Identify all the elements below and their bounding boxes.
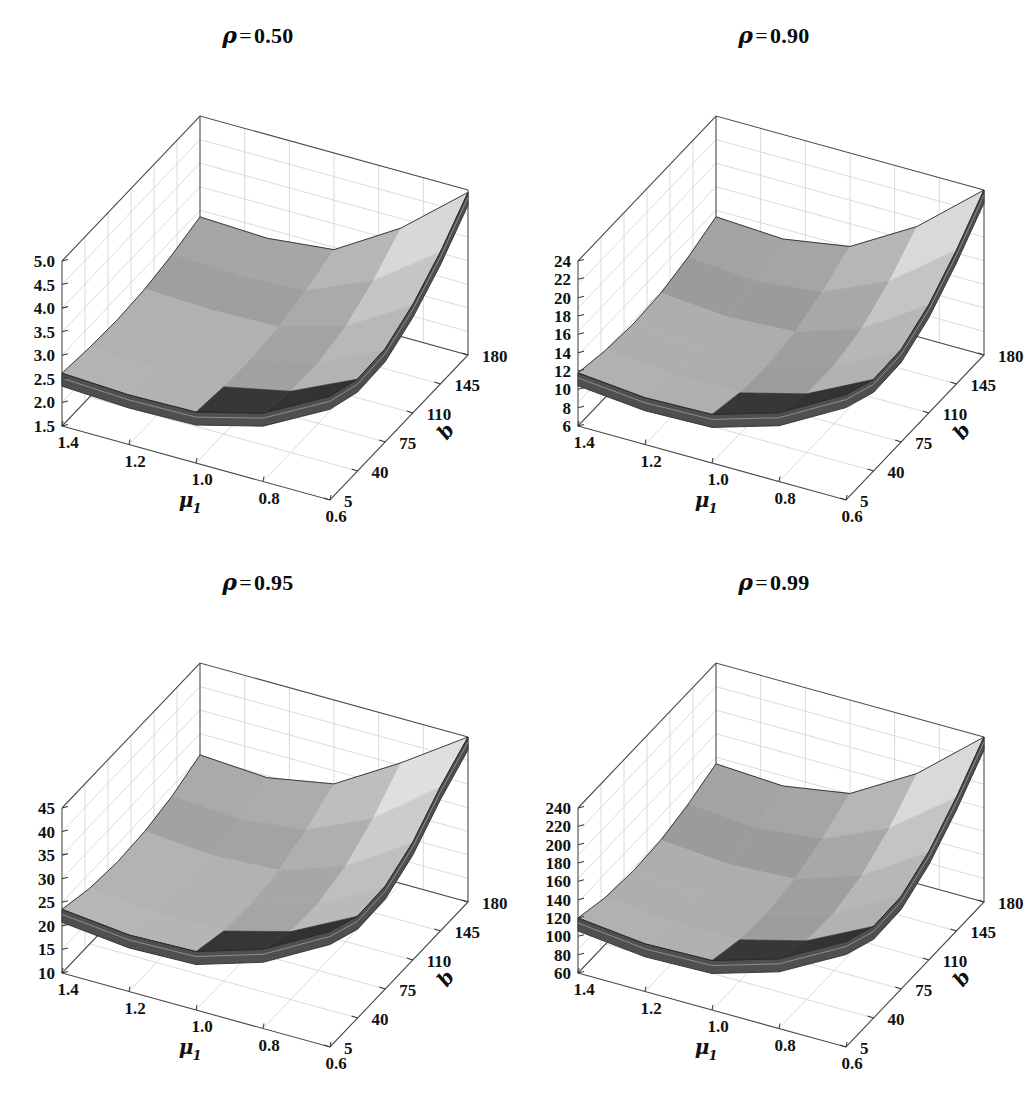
- x-tick-label: 1.0: [191, 470, 212, 489]
- x-axis-label: μ: [179, 1035, 194, 1059]
- z-tick-label: 14: [554, 344, 572, 363]
- x-tick-label: 1.0: [191, 1017, 212, 1036]
- z-tick-label: 140: [546, 891, 572, 910]
- y-tick-label: 40: [372, 463, 389, 482]
- z-tick-label: 22: [554, 270, 571, 289]
- x-tick-label: 1.4: [573, 980, 595, 999]
- y-tick-label: 40: [888, 1010, 905, 1029]
- z-tick-label: 20: [554, 289, 571, 308]
- z-tick-label: 6: [563, 417, 572, 436]
- z-tick-label: 80: [554, 946, 571, 965]
- y-tick-label: 40: [372, 1010, 389, 1029]
- z-tick-label: 3.0: [34, 346, 55, 365]
- x-tick-label: 1.4: [57, 980, 79, 999]
- y-tick-label: 75: [915, 434, 932, 453]
- x-axis-label-subscript: 1: [192, 501, 201, 516]
- plot-canvas-2: 10152025303540451.41.21.00.80.6540751101…: [0, 547, 516, 1093]
- z-tick-label: 220: [546, 817, 572, 836]
- z-tick-label: 2.5: [34, 370, 55, 389]
- y-tick-label: 145: [454, 923, 480, 942]
- x-tick-label: 0.8: [774, 1036, 795, 1055]
- z-tick-label: 160: [546, 872, 572, 891]
- z-tick-label: 5.0: [34, 252, 55, 271]
- y-tick-label: 5: [860, 1039, 869, 1058]
- z-tick-label: 180: [546, 854, 572, 873]
- z-tick-label: 24: [554, 252, 572, 271]
- surface-panel-2: ρ=0.95 10152025303540451.41.21.00.80.654…: [0, 547, 516, 1093]
- x-axis-label: μ: [179, 488, 194, 512]
- y-tick-label: 180: [998, 894, 1024, 913]
- y-tick-label: 75: [399, 981, 416, 1000]
- surface-panel-3: ρ=0.99 60801001201401601802002202401.41.…: [516, 547, 1032, 1093]
- x-axis-label-subscript: 1: [708, 501, 717, 516]
- y-tick-label: 75: [399, 434, 416, 453]
- y-tick-label: 145: [970, 376, 996, 395]
- z-tick-label: 18: [554, 307, 571, 326]
- z-tick-label: 10: [38, 964, 55, 983]
- x-tick-label: 1.4: [573, 433, 595, 452]
- z-tick-label: 200: [546, 836, 572, 855]
- z-tick-label: 35: [38, 846, 55, 865]
- y-tick-label: 145: [454, 376, 480, 395]
- y-tick-label: 180: [998, 347, 1024, 366]
- plot-canvas-3: 60801001201401601802002202401.41.21.00.8…: [516, 547, 1032, 1093]
- z-tick-label: 1.5: [34, 417, 55, 436]
- x-tick-label: 1.2: [640, 999, 661, 1018]
- z-tick-label: 16: [554, 325, 571, 344]
- x-tick-label: 0.8: [774, 489, 795, 508]
- y-tick-label: 5: [860, 492, 869, 511]
- x-axis-label: μ: [695, 1035, 710, 1059]
- x-axis-label: μ: [695, 488, 710, 512]
- surface-panel-1: ρ=0.90 6810121416182022241.41.21.00.80.6…: [516, 0, 1032, 546]
- plot-canvas-1: 6810121416182022241.41.21.00.80.65407511…: [516, 0, 1032, 546]
- figure-root: ρ=0.50 1.52.02.53.03.54.04.55.01.41.21.0…: [0, 0, 1032, 1093]
- plot-canvas-0: 1.52.02.53.03.54.04.55.01.41.21.00.80.65…: [0, 0, 516, 546]
- z-tick-label: 120: [546, 909, 572, 928]
- y-tick-label: 145: [970, 923, 996, 942]
- z-tick-label: 4.5: [34, 276, 55, 295]
- z-tick-label: 240: [546, 799, 572, 818]
- z-tick-label: 8: [563, 399, 572, 418]
- z-tick-label: 15: [38, 940, 55, 959]
- z-tick-label: 25: [38, 893, 55, 912]
- x-tick-label: 1.4: [57, 433, 79, 452]
- y-tick-label: 5: [344, 1039, 353, 1058]
- z-tick-label: 20: [38, 917, 55, 936]
- y-tick-label: 5: [344, 492, 353, 511]
- y-tick-label: 180: [482, 894, 508, 913]
- x-axis-label-subscript: 1: [708, 1048, 717, 1063]
- z-tick-label: 45: [38, 799, 55, 818]
- x-tick-label: 0.8: [258, 1036, 279, 1055]
- z-tick-label: 100: [546, 927, 572, 946]
- z-tick-label: 60: [554, 964, 571, 983]
- x-tick-label: 1.2: [124, 452, 145, 471]
- y-tick-label: 75: [915, 981, 932, 1000]
- z-tick-label: 2.0: [34, 393, 55, 412]
- z-tick-label: 12: [554, 362, 571, 381]
- z-tick-label: 40: [38, 823, 55, 842]
- y-tick-label: 180: [482, 347, 508, 366]
- x-tick-label: 1.0: [707, 470, 728, 489]
- z-tick-label: 3.5: [34, 323, 55, 342]
- z-tick-label: 4.0: [34, 299, 55, 318]
- x-tick-label: 1.2: [640, 452, 661, 471]
- y-tick-label: 40: [888, 463, 905, 482]
- x-tick-label: 0.8: [258, 489, 279, 508]
- z-tick-label: 30: [38, 870, 55, 889]
- x-axis-label-subscript: 1: [192, 1048, 201, 1063]
- surface-panel-0: ρ=0.50 1.52.02.53.03.54.04.55.01.41.21.0…: [0, 0, 516, 546]
- x-tick-label: 1.0: [707, 1017, 728, 1036]
- x-tick-label: 1.2: [124, 999, 145, 1018]
- z-tick-label: 10: [554, 380, 571, 399]
